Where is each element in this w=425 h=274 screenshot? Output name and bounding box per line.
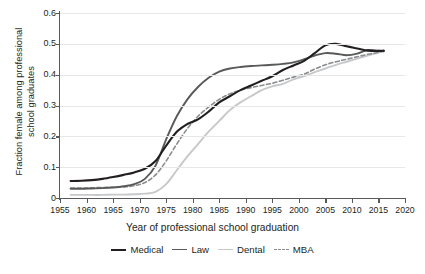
x-tick-mark bbox=[272, 198, 273, 203]
x-tick-label: 2020 bbox=[385, 205, 425, 215]
y-tick-label: 0 bbox=[30, 194, 56, 203]
gridline bbox=[60, 13, 405, 14]
y-tick-label: 0.3 bbox=[30, 101, 56, 110]
legend-label-dental: Dental bbox=[237, 244, 265, 255]
y-tick-mark bbox=[56, 75, 60, 76]
legend-item-mba: MBA bbox=[274, 244, 314, 255]
y-tick-label: 0.6 bbox=[30, 9, 56, 18]
x-tick-mark bbox=[246, 198, 247, 203]
gridline bbox=[60, 106, 405, 107]
y-tick-label: 0.1 bbox=[30, 163, 56, 172]
legend-label-medical: Medical bbox=[130, 244, 163, 255]
y-tick-label: 0.5 bbox=[30, 39, 56, 48]
y-tick-label: 0.2 bbox=[30, 132, 56, 141]
legend-swatch-mba bbox=[274, 249, 289, 250]
gridline bbox=[60, 136, 405, 137]
x-tick-mark bbox=[140, 198, 141, 203]
y-tick-mark bbox=[56, 167, 60, 168]
x-tick-mark bbox=[193, 198, 194, 203]
x-axis-title: Year of professional school graduation bbox=[0, 222, 425, 233]
gridline bbox=[60, 167, 405, 168]
legend-item-dental: Dental bbox=[218, 244, 265, 255]
x-tick-mark bbox=[60, 198, 61, 203]
legend-item-law: Law bbox=[172, 244, 209, 255]
x-tick-mark bbox=[352, 198, 353, 203]
x-tick-mark bbox=[113, 198, 114, 203]
y-tick-mark bbox=[56, 136, 60, 137]
y-tick-label: 0.4 bbox=[30, 70, 56, 79]
legend-label-mba: MBA bbox=[293, 244, 314, 255]
y-axis-title-line-1: Fraction female among professional bbox=[14, 2, 26, 202]
plot-area bbox=[60, 13, 405, 198]
legend-item-medical: Medical bbox=[111, 244, 163, 255]
x-tick-mark bbox=[87, 198, 88, 203]
legend-swatch-dental bbox=[218, 249, 233, 250]
x-tick-mark bbox=[378, 198, 379, 203]
legend-swatch-medical bbox=[111, 249, 126, 251]
gridline bbox=[60, 75, 405, 76]
y-tick-mark bbox=[56, 13, 60, 14]
chart-legend: MedicalLawDentalMBA bbox=[0, 244, 425, 255]
chart-figure: Fraction female among professional schoo… bbox=[0, 0, 425, 274]
gridline bbox=[60, 44, 405, 45]
y-tick-mark bbox=[56, 106, 60, 107]
x-tick-mark bbox=[166, 198, 167, 203]
x-tick-mark bbox=[325, 198, 326, 203]
x-tick-mark bbox=[219, 198, 220, 203]
x-tick-mark bbox=[405, 198, 406, 203]
y-axis-tick-labels: 00.10.20.30.40.50.6 bbox=[28, 0, 56, 220]
y-tick-mark bbox=[56, 44, 60, 45]
series-line-dental bbox=[71, 51, 384, 195]
legend-swatch-law bbox=[172, 249, 187, 250]
x-tick-mark bbox=[299, 198, 300, 203]
legend-label-law: Law bbox=[191, 244, 209, 255]
